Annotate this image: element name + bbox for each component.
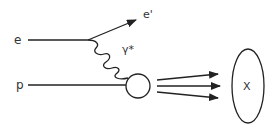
incoming-electron-label: e	[14, 33, 21, 47]
outgoing-electron-label: e'	[143, 8, 153, 21]
proton-label: p	[16, 78, 24, 92]
hadronic-final-state-label: X	[243, 80, 251, 93]
hadron-arrow-upper	[157, 74, 218, 80]
dis-diagram: e e' γ* p X	[0, 0, 277, 133]
virtual-photon-label: γ*	[122, 43, 135, 56]
diagram-canvas: e e' γ* p X	[0, 0, 277, 133]
hadron-arrow-lower	[157, 92, 218, 98]
outgoing-electron-arrow	[88, 20, 136, 40]
interaction-vertex-circle	[126, 74, 150, 98]
